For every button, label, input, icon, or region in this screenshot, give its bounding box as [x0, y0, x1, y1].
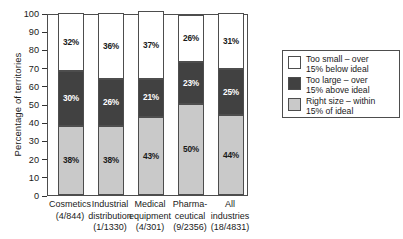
bar-column: 44%25%31% [218, 13, 244, 195]
bar-segment-label: 30% [63, 94, 79, 102]
bar-segment-label: 31% [223, 37, 239, 45]
bar-segment-label: 23% [183, 79, 199, 87]
y-axis-tick-label: 30 [29, 135, 39, 147]
bar-segment: 32% [58, 13, 84, 71]
bar-segment-label: 37% [143, 41, 159, 49]
bar-segment-label: 43% [143, 152, 159, 160]
y-axis-tick-label: 100 [24, 8, 39, 20]
bar-segment-label: 21% [143, 93, 159, 101]
bar-segment-label: 26% [183, 34, 199, 42]
bar-segment-label: 36% [103, 42, 119, 50]
y-axis-tick-label: 90 [29, 26, 39, 38]
legend-item-label: Too large – over 15% above ideal [306, 76, 370, 95]
bar-segment-label: 38% [103, 156, 119, 164]
legend-item-label: Too small – over 15% below ideal [306, 55, 369, 74]
stacked-bar-chart: Percentage of territories 10090807060504… [0, 0, 403, 239]
bar-segment: 31% [218, 13, 244, 69]
bar-segment-label: 32% [63, 38, 79, 46]
bar-column: 38%26%36% [98, 13, 124, 195]
bar-segment: 30% [58, 71, 84, 126]
legend-item: Too small – over 15% below ideal [288, 55, 399, 73]
bar-segment-label: 50% [183, 145, 199, 153]
y-axis-tick-label: 50 [29, 99, 39, 111]
bar-segment-label: 26% [103, 98, 119, 106]
bar-segment: 21% [138, 79, 164, 117]
chart-legend: Too small – over 15% below idealToo larg… [282, 50, 400, 118]
x-axis: Cosmetics(4/844)Industrialdistribution(1… [47, 199, 248, 239]
y-axis-tick-label: 40 [29, 117, 39, 129]
x-axis-category-line: All [204, 199, 256, 211]
bar-column: 43%21%37% [138, 13, 164, 195]
bar-segment: 25% [218, 69, 244, 115]
bar-segment: 26% [98, 79, 124, 126]
y-axis-tick-label: 80 [29, 44, 39, 56]
bar-segment-label: 38% [63, 156, 79, 164]
y-axis: 1009080706050403020100 [0, 0, 47, 239]
y-axis-tick-label: 60 [29, 81, 39, 93]
bar-column: 50%23%26% [178, 13, 204, 195]
bar-segment: 26% [178, 15, 204, 62]
bar-segment: 43% [138, 117, 164, 195]
legend-swatch-icon [288, 77, 301, 90]
bar-segment: 44% [218, 115, 244, 195]
x-axis-category-line: industries [204, 211, 256, 223]
y-axis-tick-label: 70 [29, 63, 39, 75]
bar-segment: 50% [178, 104, 204, 195]
legend-swatch-icon [288, 98, 301, 111]
bar-segment: 37% [138, 11, 164, 78]
legend-swatch-icon [288, 56, 301, 69]
legend-item: Right size – within 15% of ideal [288, 97, 399, 115]
x-axis-category-label: Allindustries(18/4831) [204, 199, 256, 234]
bar-segment: 38% [58, 126, 84, 195]
y-axis-tick-label: 10 [29, 172, 39, 184]
bar-segment: 38% [98, 126, 124, 195]
y-axis-tick-label: 0 [34, 190, 39, 202]
legend-item: Too large – over 15% above ideal [288, 76, 399, 94]
bar-segment: 36% [98, 13, 124, 79]
bar-segment-label: 44% [223, 151, 239, 159]
y-axis-tick-label: 20 [29, 154, 39, 166]
bar-column: 38%30%32% [58, 13, 84, 195]
x-axis-category-line: (18/4831) [204, 222, 256, 234]
legend-item-label: Right size – within 15% of ideal [306, 97, 375, 116]
plot-area: 38%30%32%38%26%36%43%21%37%50%23%26%44%2… [47, 14, 248, 196]
bar-segment: 23% [178, 62, 204, 104]
bar-segment-label: 25% [223, 88, 239, 96]
